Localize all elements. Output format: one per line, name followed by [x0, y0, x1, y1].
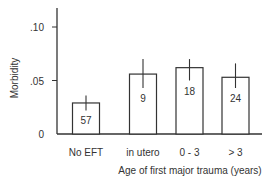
- bar-group: 18: [176, 59, 203, 134]
- x-tick-labels: No EFTin utero0 - 3> 3: [69, 147, 243, 158]
- chart-canvas: 0.05.10 5791824 No EFTin utero0 - 3> 3 M…: [0, 0, 278, 182]
- bar-count-label: 24: [230, 93, 242, 104]
- y-ticks: 0.05.10: [30, 22, 57, 140]
- bar-group: 9: [130, 59, 157, 134]
- bars: 5791824: [73, 59, 250, 134]
- y-axis-label: Morbidity: [9, 58, 20, 99]
- morbidity-bar-chart: 0.05.10 5791824 No EFTin utero0 - 3> 3 M…: [0, 0, 278, 182]
- x-tick-label: No EFT: [69, 147, 103, 158]
- x-tick-label: 0 - 3: [179, 147, 199, 158]
- x-axis-label: Age of first major trauma (years): [118, 165, 261, 176]
- bar-group: 24: [222, 63, 249, 134]
- y-tick-label: 0: [38, 129, 44, 140]
- y-tick-label: .05: [30, 76, 44, 87]
- x-tick-label: in utero: [126, 147, 160, 158]
- y-tick-label: .10: [30, 22, 44, 33]
- bar-group: 57: [73, 95, 100, 134]
- bar-count-label: 18: [184, 86, 196, 97]
- bar-count-label: 9: [140, 93, 146, 104]
- x-tick-label: > 3: [228, 147, 243, 158]
- bar-count-label: 57: [80, 115, 92, 126]
